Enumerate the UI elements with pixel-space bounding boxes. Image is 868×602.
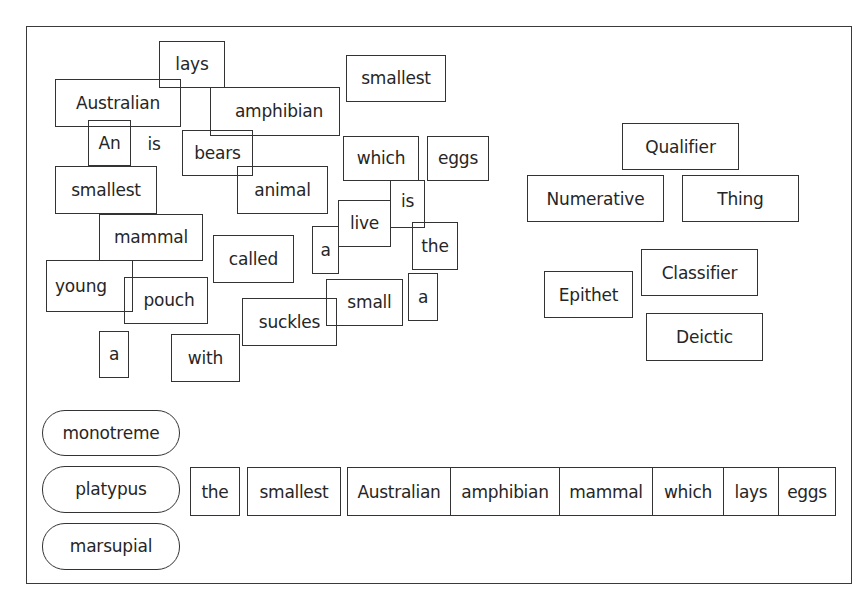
word-tile-amphibian[interactable]: amphibian (210, 87, 340, 136)
word-tile-a-middle[interactable]: a (312, 226, 339, 274)
word-tile-which[interactable]: which (343, 136, 419, 181)
sequence-word-smallest[interactable]: smallest (247, 467, 341, 516)
sequence-word-eggs[interactable]: eggs (779, 467, 836, 516)
function-label-numerative[interactable]: Numerative (527, 175, 664, 222)
word-tile-live[interactable]: live (338, 200, 391, 247)
word-is-unboxed[interactable]: is (140, 124, 168, 164)
sequence-word-which[interactable]: which (653, 467, 724, 516)
word-tile-small[interactable]: small (326, 279, 403, 326)
sequence-word-mammal[interactable]: mammal (560, 467, 653, 516)
head-noun-platypus[interactable]: platypus (42, 466, 180, 513)
word-tile-an[interactable]: An (88, 120, 131, 166)
function-label-thing[interactable]: Thing (682, 175, 799, 222)
word-tile-a-right[interactable]: a (408, 273, 438, 321)
head-noun-monotreme[interactable]: monotreme (42, 410, 180, 456)
word-tile-with[interactable]: with (171, 334, 240, 382)
word-tile-the[interactable]: the (412, 222, 458, 270)
word-tile-suckles[interactable]: suckles (242, 298, 337, 346)
word-tile-pouch[interactable]: pouch (124, 277, 208, 324)
word-tile-eggs[interactable]: eggs (427, 136, 489, 181)
sequence-word-australian[interactable]: Australian (347, 467, 451, 516)
function-label-deictic[interactable]: Deictic (646, 313, 763, 361)
word-tile-called[interactable]: called (213, 235, 294, 283)
word-tile-smallest-top[interactable]: smallest (346, 55, 446, 102)
word-tile-mammal[interactable]: mammal (99, 214, 203, 261)
function-label-epithet[interactable]: Epithet (544, 271, 633, 318)
function-label-qualifier[interactable]: Qualifier (622, 123, 739, 170)
sequence-word-lays[interactable]: lays (724, 467, 779, 516)
word-tile-is[interactable]: is (390, 180, 425, 228)
head-noun-marsupial[interactable]: marsupial (42, 523, 180, 570)
word-tile-a-bottom[interactable]: a (99, 331, 129, 378)
word-tile-smallest-left[interactable]: smallest (55, 166, 157, 214)
sequence-word-amphibian[interactable]: amphibian (451, 467, 560, 516)
word-tile-young[interactable]: young (46, 260, 133, 312)
function-label-classifier[interactable]: Classifier (641, 249, 758, 296)
word-tile-animal[interactable]: animal (237, 166, 328, 214)
sequence-word-the[interactable]: the (190, 467, 240, 516)
